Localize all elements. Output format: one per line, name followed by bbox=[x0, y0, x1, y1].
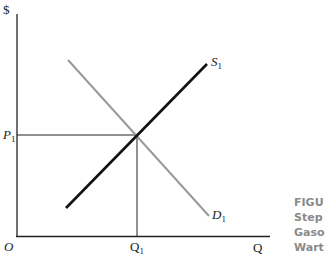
caption-line-4: Wart bbox=[294, 242, 324, 253]
diagram-canvas bbox=[0, 0, 325, 257]
supply-label: S1 bbox=[211, 55, 222, 71]
caption-line-1: FIGU bbox=[294, 197, 324, 208]
x-axis-label: Q bbox=[253, 241, 262, 254]
supply-demand-diagram: $ O Q P1 Q1 S1 D1 FIGU Step Gaso Wart bbox=[0, 0, 325, 257]
caption-line-2: Step bbox=[294, 212, 323, 223]
price-label: P1 bbox=[3, 128, 15, 144]
caption-line-3: Gaso bbox=[294, 227, 325, 238]
quantity-label: Q1 bbox=[130, 240, 144, 256]
y-axis-label: $ bbox=[3, 3, 10, 16]
origin-label: O bbox=[4, 240, 13, 253]
demand-label: D1 bbox=[212, 208, 226, 224]
